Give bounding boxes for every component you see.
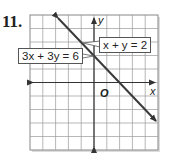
coordinate-graph: O x y bbox=[0, 0, 169, 163]
x-axis-label: x bbox=[149, 85, 156, 97]
equation-label-1: x + y = 2 bbox=[99, 37, 151, 53]
equation-label-2: 3x + 3y = 6 bbox=[18, 48, 83, 64]
origin-label: O bbox=[100, 87, 109, 99]
